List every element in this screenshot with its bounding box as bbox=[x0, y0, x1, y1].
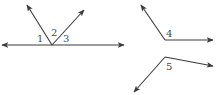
angle-diagram: 12345 bbox=[0, 0, 216, 95]
angle-label: 5 bbox=[166, 61, 172, 72]
angle-label: 2 bbox=[51, 27, 57, 38]
figure-a: 123 bbox=[2, 5, 124, 45]
ray-arrow bbox=[141, 5, 165, 40]
figure-c: 5 bbox=[134, 57, 213, 92]
angle-label: 1 bbox=[37, 33, 43, 44]
ray-arrow bbox=[134, 57, 165, 92]
angle-label: 3 bbox=[63, 33, 69, 44]
figure-b: 4 bbox=[141, 5, 213, 40]
angle-label: 4 bbox=[166, 28, 172, 39]
figures-group: 12345 bbox=[2, 5, 213, 92]
